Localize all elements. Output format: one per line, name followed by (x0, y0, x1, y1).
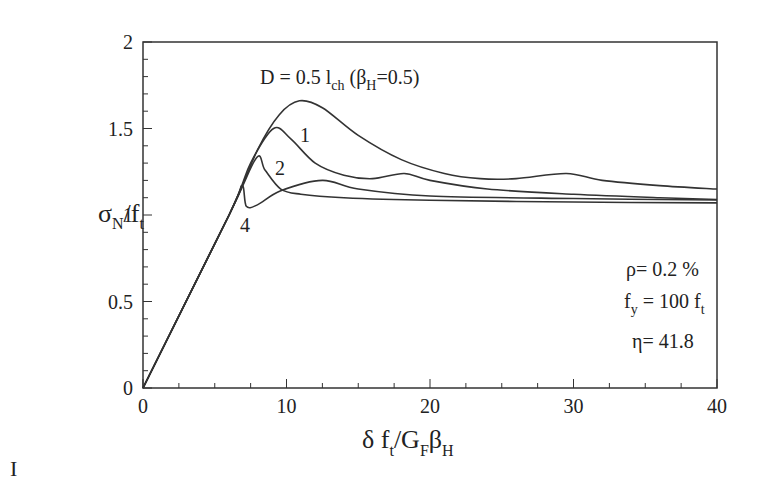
series-annotation-top: D = 0.5 lch (βH=0.5) (260, 66, 419, 93)
y-tick-label: 0 (123, 377, 133, 399)
x-tick-label: 30 (564, 395, 584, 417)
rho-annotation: ρ= 0.2 % (626, 258, 699, 281)
chart: 01020304000.511.52 σN/ft δ ft/GFβH D = 0… (0, 0, 758, 500)
x-tick-label: 20 (420, 395, 440, 417)
y-tick-label: 2 (123, 31, 133, 53)
y-tick-label: 1.5 (108, 118, 133, 140)
y-tick-label: 0.5 (108, 291, 133, 313)
series-line (143, 180, 717, 388)
curve-label-2: 2 (275, 157, 285, 179)
fy-annotation: fy = 100 ft (624, 290, 705, 317)
curves (143, 101, 717, 388)
x-tick-label: 10 (277, 395, 297, 417)
eta-annotation: η= 41.8 (632, 330, 694, 353)
stray-mark: I (10, 456, 17, 482)
x-axis-label: δ ft/GFβH (362, 425, 454, 459)
series-line (143, 101, 717, 388)
x-tick-label: 0 (138, 395, 148, 417)
x-tick-label: 40 (707, 395, 727, 417)
curve-label-4: 4 (240, 214, 250, 236)
tick-labels: 01020304000.511.52 (108, 31, 727, 417)
curve-label-1: 1 (300, 124, 310, 146)
y-axis-label: σN/ft (98, 199, 144, 232)
